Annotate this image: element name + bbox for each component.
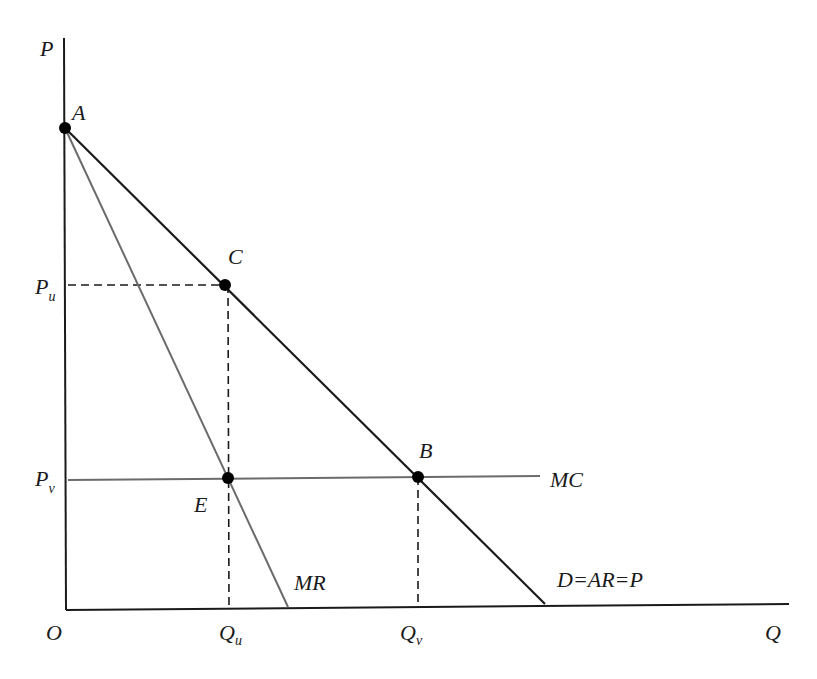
qu-label: Qu xyxy=(219,620,242,648)
pv-label-main: P xyxy=(34,466,48,491)
point-c-label: C xyxy=(228,244,243,269)
mr-label: MR xyxy=(293,570,326,595)
demand-label: D=AR=P xyxy=(556,567,643,592)
pv-label-sub: v xyxy=(48,481,55,496)
origin-label: O xyxy=(46,620,62,645)
point-a xyxy=(59,122,71,134)
qv-label-main: Q xyxy=(400,620,416,645)
pu-label: Pu xyxy=(34,274,55,304)
point-e-label: E xyxy=(193,492,208,517)
mc-curve xyxy=(68,476,540,480)
mc-label: MC xyxy=(549,467,583,492)
pv-label: Pv xyxy=(34,466,55,496)
monopoly-diagram: P Q O A C E B MC MR D=AR=P Pu Pv Qu Qv xyxy=(0,0,817,679)
point-e xyxy=(222,472,234,484)
qu-label-main: Q xyxy=(219,620,235,645)
point-b xyxy=(412,471,424,483)
demand-curve xyxy=(65,128,545,604)
qv-label-sub: v xyxy=(416,633,423,648)
qv-label: Qv xyxy=(400,620,423,648)
mr-curve xyxy=(65,128,288,607)
qu-label-sub: u xyxy=(235,633,242,648)
point-a-label: A xyxy=(70,100,86,125)
point-c xyxy=(219,279,231,291)
point-b-label: B xyxy=(419,438,432,463)
pu-label-sub: u xyxy=(48,289,55,304)
x-axis xyxy=(66,604,789,610)
qu-dashed-line xyxy=(228,285,229,608)
y-axis-label: P xyxy=(39,36,53,61)
pu-label-main: P xyxy=(34,274,48,299)
x-axis-label: Q xyxy=(765,620,781,645)
